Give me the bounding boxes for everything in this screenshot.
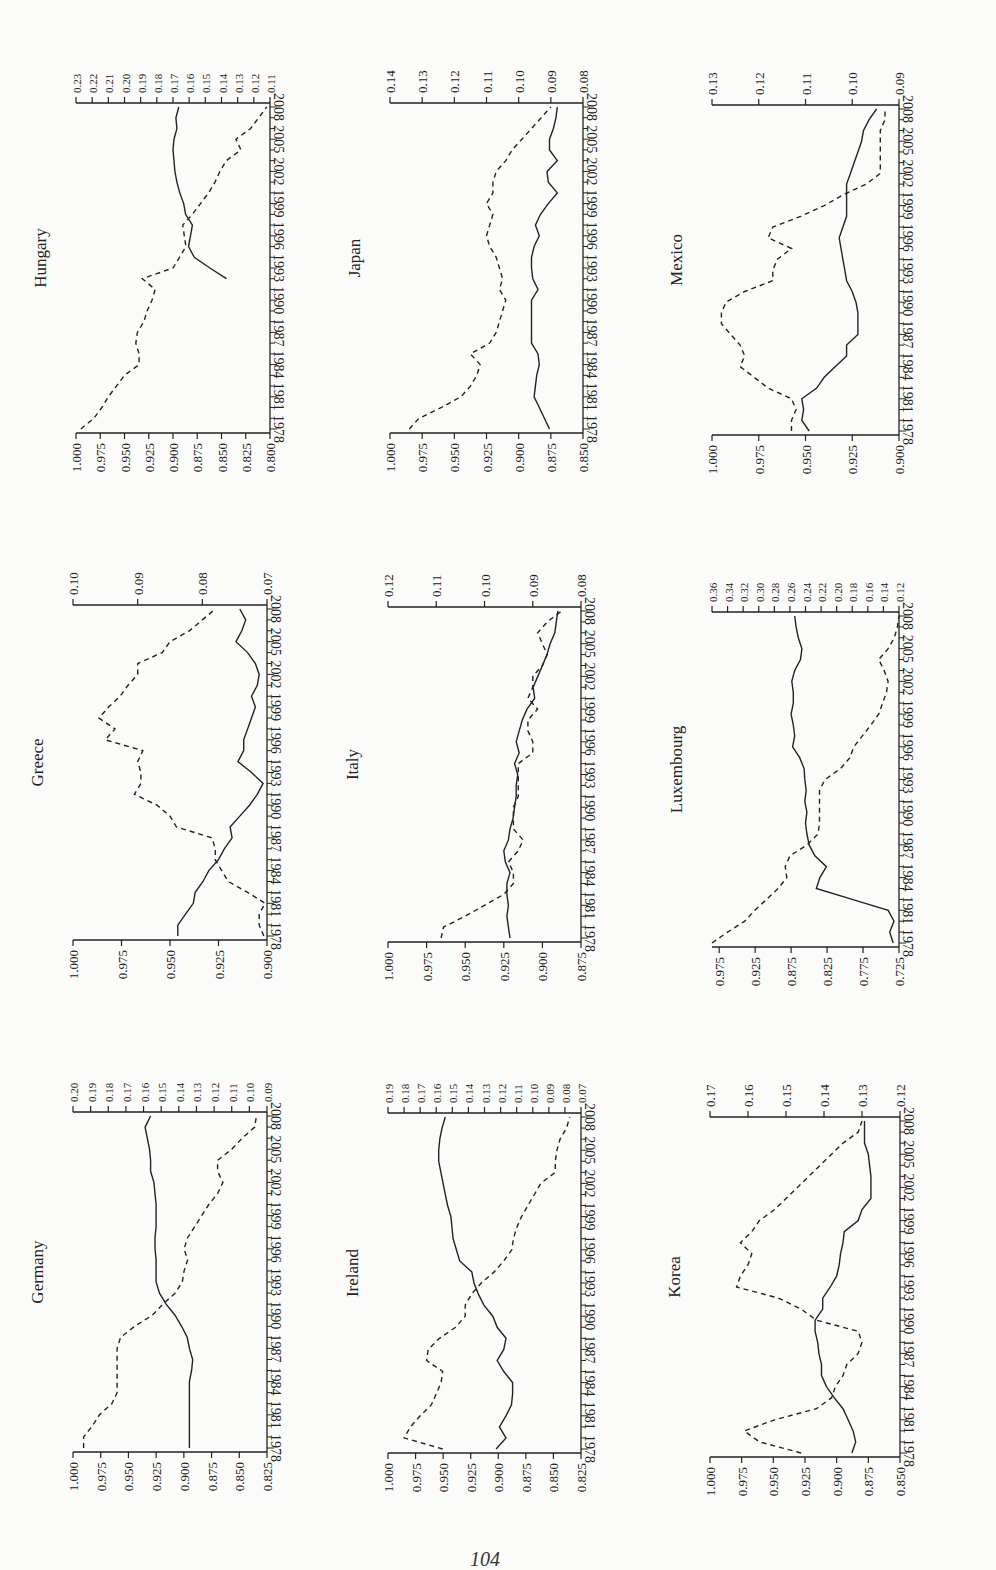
svg-text:0.12: 0.12 <box>893 1084 908 1107</box>
svg-text:0.825: 0.825 <box>239 443 254 472</box>
svg-text:0.925: 0.925 <box>748 957 763 986</box>
svg-text:0.14: 0.14 <box>817 1084 832 1107</box>
svg-text:2008: 2008 <box>268 595 283 623</box>
svg-text:2005: 2005 <box>271 125 286 153</box>
svg-text:1984: 1984 <box>582 1369 597 1397</box>
svg-text:1984: 1984 <box>900 864 915 892</box>
svg-text:0.775: 0.775 <box>856 957 871 986</box>
svg-text:1996: 1996 <box>582 1236 597 1264</box>
chart-panel-greece: 1.0000.9750.9500.9250.9000.100.090.080.0… <box>0 510 330 1020</box>
svg-text:1984: 1984 <box>900 353 915 381</box>
dashed-series-line <box>737 1121 862 1453</box>
svg-text:1999: 1999 <box>268 693 283 721</box>
svg-text:2008: 2008 <box>268 1102 283 1130</box>
svg-text:1990: 1990 <box>900 798 915 826</box>
svg-text:0.14: 0.14 <box>878 582 890 602</box>
svg-text:0.22: 0.22 <box>816 583 828 602</box>
svg-text:2005: 2005 <box>901 1140 916 1168</box>
svg-text:1999: 1999 <box>268 1202 283 1230</box>
svg-text:0.875: 0.875 <box>544 443 559 472</box>
svg-text:1990: 1990 <box>901 1306 916 1334</box>
svg-text:1990: 1990 <box>271 286 286 314</box>
svg-text:0.11: 0.11 <box>227 1083 239 1102</box>
svg-text:2005: 2005 <box>268 1135 283 1163</box>
svg-text:0.13: 0.13 <box>191 1082 203 1102</box>
svg-text:0.18: 0.18 <box>103 1082 115 1102</box>
svg-text:1984: 1984 <box>901 1373 916 1401</box>
svg-text:0.07: 0.07 <box>576 1083 588 1103</box>
chart-panel-hungary: 1.0000.9750.9500.9250.9000.8750.8500.825… <box>0 0 330 510</box>
svg-text:1999: 1999 <box>582 1203 597 1231</box>
svg-text:Korea: Korea <box>665 1256 684 1298</box>
svg-text:0.950: 0.950 <box>458 952 473 981</box>
svg-text:2008: 2008 <box>901 1107 916 1135</box>
svg-text:0.23: 0.23 <box>71 73 83 93</box>
svg-text:1.000: 1.000 <box>705 445 720 474</box>
svg-text:1993: 1993 <box>271 254 286 282</box>
page-number: 104 <box>470 1548 500 1570</box>
svg-text:1990: 1990 <box>582 1302 597 1330</box>
svg-text:Italy: Italy <box>343 748 362 780</box>
svg-text:0.10: 0.10 <box>512 70 527 93</box>
svg-text:0.16: 0.16 <box>431 1083 443 1103</box>
svg-text:Japan: Japan <box>345 238 364 277</box>
svg-text:1993: 1993 <box>901 1273 916 1301</box>
svg-text:0.19: 0.19 <box>383 1083 395 1103</box>
svg-text:0.11: 0.11 <box>480 71 495 93</box>
svg-text:0.09: 0.09 <box>526 574 541 597</box>
svg-text:2005: 2005 <box>900 127 915 155</box>
svg-text:0.26: 0.26 <box>785 582 797 602</box>
svg-text:1993: 1993 <box>582 1269 597 1297</box>
svg-text:2008: 2008 <box>271 93 286 121</box>
chart-panel-luxembourg: 0.9750.9250.8750.8250.7750.7250.360.340.… <box>660 510 996 1020</box>
svg-text:0.15: 0.15 <box>156 1082 168 1102</box>
svg-text:0.08: 0.08 <box>195 572 210 595</box>
svg-text:0.875: 0.875 <box>861 1467 876 1496</box>
svg-text:0.900: 0.900 <box>260 950 275 979</box>
svg-text:0.975: 0.975 <box>712 957 727 986</box>
svg-text:0.11: 0.11 <box>512 1084 524 1103</box>
svg-text:0.12: 0.12 <box>894 583 906 602</box>
svg-text:1987: 1987 <box>268 1334 283 1362</box>
svg-text:0.08: 0.08 <box>560 1083 572 1103</box>
svg-text:1993: 1993 <box>584 254 599 282</box>
svg-text:0.36: 0.36 <box>707 582 719 602</box>
svg-text:0.10: 0.10 <box>845 72 860 95</box>
solid-series-line <box>532 107 558 429</box>
svg-text:0.13: 0.13 <box>233 73 245 93</box>
svg-text:1999: 1999 <box>271 190 286 218</box>
svg-text:0.10: 0.10 <box>478 574 493 597</box>
svg-text:1.000: 1.000 <box>69 443 84 472</box>
svg-text:1990: 1990 <box>582 793 597 821</box>
svg-text:0.07: 0.07 <box>260 572 275 595</box>
svg-text:0.725: 0.725 <box>892 957 907 986</box>
svg-text:0.14: 0.14 <box>463 1083 475 1103</box>
chart-panel-korea: 1.0000.9750.9500.9250.9000.8750.8500.170… <box>660 1020 996 1540</box>
svg-text:0.08: 0.08 <box>574 574 589 597</box>
svg-text:1993: 1993 <box>900 766 915 794</box>
svg-text:1990: 1990 <box>268 1301 283 1329</box>
svg-text:2002: 2002 <box>271 157 286 185</box>
svg-text:0.18: 0.18 <box>847 582 859 602</box>
solid-series-line <box>178 609 263 936</box>
svg-text:0.12: 0.12 <box>752 72 767 95</box>
svg-text:1.000: 1.000 <box>383 443 398 472</box>
svg-text:0.14: 0.14 <box>217 73 229 93</box>
svg-text:0.20: 0.20 <box>832 582 844 602</box>
svg-text:1990: 1990 <box>900 288 915 316</box>
svg-text:2002: 2002 <box>268 660 283 688</box>
svg-text:0.13: 0.13 <box>705 72 720 95</box>
svg-text:0.12: 0.12 <box>249 74 261 93</box>
svg-text:0.925: 0.925 <box>497 952 512 981</box>
svg-text:1990: 1990 <box>584 286 599 314</box>
svg-text:0.900: 0.900 <box>166 443 181 472</box>
svg-text:0.925: 0.925 <box>149 1462 164 1491</box>
svg-text:0.850: 0.850 <box>546 1463 561 1492</box>
svg-text:0.34: 0.34 <box>723 582 735 602</box>
svg-text:1987: 1987 <box>900 320 915 348</box>
solid-series-line <box>802 109 877 431</box>
svg-text:0.09: 0.09 <box>131 572 146 595</box>
solid-series-line <box>173 107 226 279</box>
svg-text:0.16: 0.16 <box>741 1084 756 1107</box>
svg-text:0.10: 0.10 <box>244 1082 256 1102</box>
